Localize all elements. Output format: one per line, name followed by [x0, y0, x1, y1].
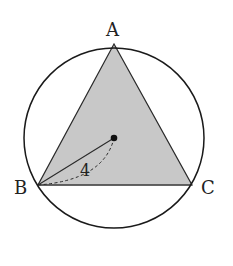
label-vertex-c: C: [201, 177, 215, 198]
label-radius-length: 4: [80, 161, 90, 180]
label-vertex-b: B: [14, 177, 27, 198]
center-point: [111, 135, 118, 142]
label-vertex-a: A: [105, 19, 120, 40]
geometry-diagram: A B C 4: [0, 0, 233, 266]
